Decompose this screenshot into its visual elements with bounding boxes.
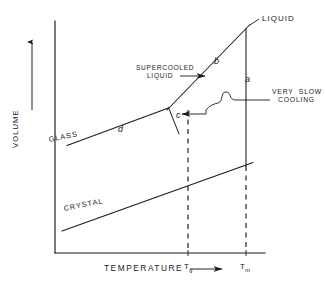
x-tick-label-tg: Tg — [184, 262, 193, 273]
segment-d-label: d — [118, 124, 123, 134]
supercooled-liquid-label: SUPERCOOLEDLIQUID — [136, 64, 194, 79]
very-slow-cooling-line2: COOLING — [278, 96, 322, 104]
x-tick-label-tm: Tm — [240, 262, 250, 273]
volume-temperature-diagram — [0, 0, 325, 291]
figure-canvas: VOLUME TEMPERATURE LIQUID SUPERCOOLEDLIQ… — [0, 0, 325, 291]
very-slow-cooling-leader — [182, 92, 270, 114]
crystal-curve — [62, 163, 253, 232]
supercooled-liquid-label-line1: SUPERCOOLED — [136, 64, 194, 71]
liquid-label: LIQUID — [262, 14, 295, 23]
very-slow-cooling-label: VERY SLOWCOOLING — [272, 88, 322, 104]
supercooled-liquid-label-line2: LIQUID — [147, 72, 194, 80]
segment-b-label: b — [214, 56, 219, 66]
tm-subscript: m — [245, 267, 250, 273]
x-axis-label: TEMPERATURE — [104, 264, 183, 274]
tg-subscript: g — [189, 267, 192, 273]
y-axis-label: VOLUME — [12, 109, 21, 148]
liquid-label-leader — [250, 19, 259, 25]
dashed-guides — [188, 110, 246, 251]
segment-c-label: c — [176, 110, 181, 120]
very-slow-cooling-line1: VERY SLOW — [272, 88, 322, 95]
segment-a-label: a — [245, 74, 250, 84]
